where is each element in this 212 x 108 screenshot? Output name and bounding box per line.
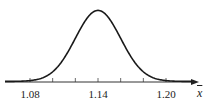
x-axis-arrow-icon [191,79,199,85]
x-axis-ticks [30,78,166,82]
x-bar-axis-label: x [197,86,202,101]
tick-label-1-08: 1.08 [20,88,39,100]
tick-label-1-14: 1.14 [88,88,107,100]
normal-distribution-curve [5,10,192,81]
tick-label-1-20: 1.20 [156,88,175,100]
